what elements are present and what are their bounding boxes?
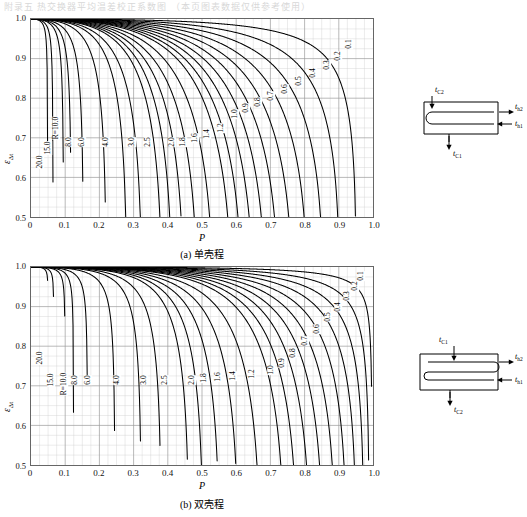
x-tick-label: 0.3	[121, 221, 145, 230]
diagram-label-th1-a: th1	[515, 119, 523, 129]
x-tick-label: 0.5	[190, 221, 214, 230]
figure-sheet: 附录五 热交换器平均温差校正系数图 （本页图表数据仅供参考使用） R=10.01…	[0, 0, 527, 517]
y-tick-label: 0.9	[2, 302, 26, 311]
curve-label: 1.0	[231, 109, 239, 119]
x-tick-label: 1.0	[362, 469, 386, 478]
y-tick-label: 1.0	[2, 262, 26, 271]
curve-label: 2.5	[144, 137, 152, 147]
x-tick-label: 0.2	[87, 221, 111, 230]
y-axis-title-b: εΔt	[2, 402, 15, 412]
x-tick-label: 0.5	[190, 469, 214, 478]
curve-label: 4.0	[113, 375, 121, 385]
y-tick-label: 0.6	[2, 174, 26, 183]
double-shell-pass-diagram: tC1 th2 th1 tC2	[406, 328, 526, 418]
plot-area-a: R=10.015.020.08.06.04.03.02.52.01.81.61.…	[30, 18, 374, 218]
diagram-label-th2-b: th2	[515, 352, 523, 362]
curve-label: 3.0	[128, 137, 136, 147]
x-tick-label: 0	[18, 221, 42, 230]
y-tick-label: 1.0	[2, 14, 26, 23]
x-tick-label: 0.7	[259, 469, 283, 478]
curve-label: 1.0	[267, 365, 275, 375]
curve-label: 15.0	[44, 141, 52, 155]
curve-label: 0.4	[334, 302, 342, 312]
curve-label: 6.0	[79, 137, 87, 147]
curve-label: 1.2	[248, 369, 256, 379]
curve-label: 20.0	[37, 351, 45, 365]
curve-label: R=10.0	[61, 372, 69, 395]
curve-label: 0.2	[351, 281, 359, 291]
curve-label: 0.4	[309, 68, 317, 78]
curve-label: 1.2	[218, 123, 226, 133]
curve-label: 0.9	[278, 358, 286, 368]
curve-label: 0.3	[343, 291, 351, 301]
figure-a: R=10.015.020.08.06.04.03.02.52.01.81.61.…	[0, 14, 527, 260]
x-tick-label: 0	[18, 469, 42, 478]
curve-label: 1.6	[191, 133, 199, 143]
x-tick-label: 0.8	[293, 469, 317, 478]
chart-svg-b	[31, 267, 373, 465]
curve-label: 20.0	[37, 155, 45, 169]
curve-label: 1.8	[180, 137, 188, 147]
x-axis-title-a: P	[30, 232, 374, 243]
curve-label: 6.0	[84, 375, 92, 385]
curve-label: 0.1	[358, 271, 366, 281]
x-tick-label: 0.4	[156, 221, 180, 230]
curve-label: 0.5	[295, 76, 303, 86]
diagram-label-tc2-a: tC2	[435, 85, 444, 95]
y-tick-label: 0.6	[2, 422, 26, 431]
curve-label: 1.6	[214, 372, 222, 382]
curve-label: 0.8	[254, 97, 262, 107]
y-tick-label: 0.7	[2, 134, 26, 143]
y-tick-label: 0.7	[2, 382, 26, 391]
plot-canvas-a	[30, 18, 374, 218]
y-axis-title-sub-a: Δt	[7, 154, 15, 160]
x-tick-label: 0.6	[224, 221, 248, 230]
x-tick-label: 0.9	[328, 469, 352, 478]
x-tick-label: 0.1	[52, 469, 76, 478]
y-axis-title-sub-b: Δt	[7, 402, 15, 408]
curve-label: 2.0	[168, 137, 176, 147]
figure-caption-a: (a) 单壳程	[30, 246, 374, 261]
diagram-label-tc1-a: tC1	[453, 149, 462, 159]
curve-label: 2.5	[161, 375, 169, 385]
x-tick-label: 0.3	[121, 469, 145, 478]
x-tick-label: 0.1	[52, 221, 76, 230]
curve-label: 0.6	[313, 324, 321, 334]
plot-area-b: 20.015.0R=10.08.06.04.03.02.52.01.81.61.…	[30, 266, 374, 466]
y-axis-title-text-a: ε	[2, 160, 12, 164]
chart-svg-a	[31, 19, 373, 217]
curve-label: 8.0	[72, 375, 80, 385]
curve-label: 1.8	[200, 373, 208, 383]
single-shell-pass-diagram: tC2 th2 th1 tC1	[402, 76, 524, 162]
curve-label: 0.6	[281, 84, 289, 94]
curve-label: 0.7	[301, 336, 309, 346]
y-tick-label: 0.9	[2, 54, 26, 63]
curve-label: R=10.0	[52, 116, 60, 139]
curve-label: 0.3	[323, 60, 331, 70]
plot-canvas-b	[30, 266, 374, 466]
y-axis-title-text-b: ε	[2, 408, 12, 412]
x-tick-label: 0.4	[156, 469, 180, 478]
y-axis-title-a: εΔt	[2, 154, 15, 164]
curve-label: 0.9	[242, 103, 250, 113]
x-tick-label: 0.7	[259, 221, 283, 230]
curve-label: 8.0	[65, 137, 73, 147]
curve-label: 4.0	[103, 137, 111, 147]
figure-b: 20.015.0R=10.08.06.04.03.02.52.01.81.61.…	[0, 262, 527, 517]
y-tick-label: 0.8	[2, 342, 26, 351]
x-tick-label: 1.0	[362, 221, 386, 230]
curve-label: 0.1	[345, 39, 353, 49]
diagram-label-tc1-b: tC1	[439, 335, 448, 345]
x-tick-label: 0.9	[328, 221, 352, 230]
x-tick-label: 0.8	[293, 221, 317, 230]
x-axis-title-b: P	[30, 480, 374, 491]
diagram-label-th1-b: th1	[515, 375, 523, 385]
curve-label: 3.0	[140, 375, 148, 385]
curve-label: 0.7	[267, 91, 275, 101]
curve-label: 0.2	[334, 51, 342, 61]
diagram-label-tc2-b: tC2	[454, 405, 463, 415]
curve-label: 15.0	[48, 373, 56, 387]
curve-label: 0.5	[324, 312, 332, 322]
page-header-text: 附录五 热交换器平均温差校正系数图 （本页图表数据仅供参考使用）	[4, 0, 524, 14]
x-tick-label: 0.6	[224, 469, 248, 478]
